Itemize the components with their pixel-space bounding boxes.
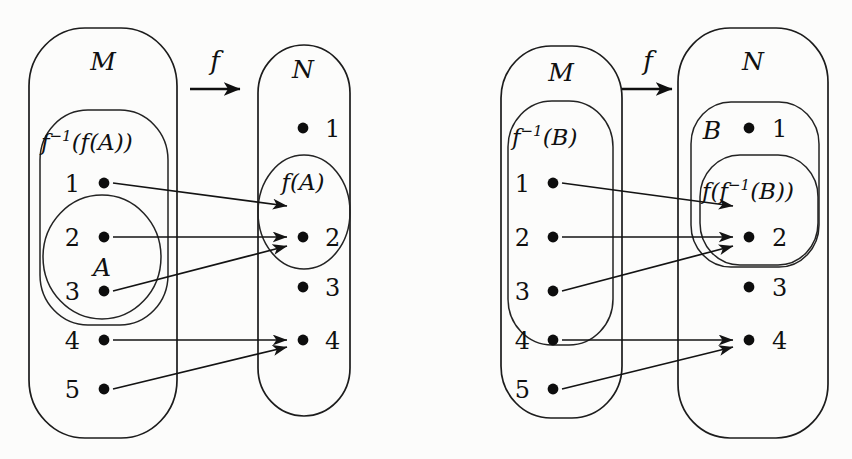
right-M-elem-5: 5 bbox=[515, 376, 530, 404]
svg-text:f(f−1(B)): f(f−1(B)) bbox=[700, 176, 794, 204]
left-N-elem-2: 2 bbox=[325, 224, 340, 252]
left-finv-tail: (f(A)) bbox=[72, 129, 133, 155]
left-M-elem-4: 4 bbox=[65, 327, 80, 355]
left-M-elem-3: 3 bbox=[65, 278, 80, 306]
figure-canvas: M f f−1(f(A)) A 1 2 3 4 5 N f(A) 1 2 3 4… bbox=[0, 0, 852, 459]
right-label-preimage-B: f−1(B) bbox=[510, 122, 578, 150]
right-finv-exp: −1 bbox=[521, 122, 543, 140]
svg-text:f−1(f(A)): f−1(f(A)) bbox=[39, 127, 133, 155]
svg-text:f−1(B): f−1(B) bbox=[510, 122, 578, 150]
right-ffinv-head: f(f bbox=[700, 178, 731, 204]
right-label-image-of-preimage: f(f−1(B)) bbox=[700, 176, 794, 204]
right-N-element-dots bbox=[744, 123, 755, 346]
right-label-B: B bbox=[702, 116, 721, 145]
right-label-M: M bbox=[547, 58, 575, 87]
left-N-elem-3: 3 bbox=[325, 274, 340, 302]
left-M-element-dots bbox=[99, 178, 110, 395]
left-label-f: f bbox=[208, 46, 224, 76]
right-mapping-arrows bbox=[562, 183, 733, 389]
right-M-elem-4: 4 bbox=[515, 327, 530, 355]
right-N-elem-3: 3 bbox=[772, 274, 787, 302]
left-M-elem-5: 5 bbox=[65, 376, 80, 404]
left-label-preimage-of-image: f−1(f(A)) bbox=[39, 127, 133, 155]
left-label-image-fA: f(A) bbox=[279, 169, 324, 195]
right-subset-image-of-preimage-outline bbox=[700, 155, 818, 265]
right-ffinv-exp: −1 bbox=[728, 176, 750, 194]
right-ffinv-tail: (B)) bbox=[750, 178, 794, 204]
left-M-elem-2: 2 bbox=[65, 224, 80, 252]
left-M-elem-1: 1 bbox=[65, 170, 80, 198]
right-label-N: N bbox=[741, 47, 765, 76]
right-N-elem-1: 1 bbox=[772, 115, 787, 143]
left-mapping-arrows bbox=[113, 183, 287, 389]
right-label-f: f bbox=[641, 46, 657, 76]
left-label-A: A bbox=[91, 253, 111, 282]
right-M-element-dots bbox=[548, 178, 559, 395]
right-M-elem-3: 3 bbox=[515, 278, 530, 306]
right-N-elem-4: 4 bbox=[772, 327, 787, 355]
set-diagram-svg: M f f−1(f(A)) A 1 2 3 4 5 N f(A) 1 2 3 4… bbox=[0, 0, 852, 459]
left-label-N: N bbox=[291, 55, 315, 84]
left-N-elem-4: 4 bbox=[325, 327, 340, 355]
left-N-elem-1: 1 bbox=[325, 115, 340, 143]
right-finv-tail: (B) bbox=[543, 124, 578, 150]
left-finv-exp: −1 bbox=[50, 127, 72, 145]
right-M-elem-1: 1 bbox=[515, 170, 530, 198]
right-N-elem-2: 2 bbox=[772, 224, 787, 252]
left-label-M: M bbox=[89, 47, 117, 76]
right-M-elem-2: 2 bbox=[515, 224, 530, 252]
